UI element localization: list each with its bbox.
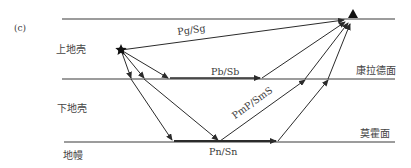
- upper-crust-label: 上地壳: [56, 45, 86, 55]
- lower-crust-label: 下地壳: [57, 104, 87, 114]
- ray-pmp-up-upper: [305, 23, 348, 79]
- ray-pb-down: [121, 50, 168, 78]
- ray-pn-down: [131, 79, 172, 140]
- moho-interface-label: 莫霍面: [360, 129, 390, 139]
- ray-pn-up: [278, 80, 328, 141]
- conrad-interface-label: 康拉德面: [356, 66, 396, 76]
- ray-pmp-down-to-conrad: [121, 50, 144, 78]
- ray-pn-down-to-conrad: [121, 50, 131, 78]
- triangle-station-icon: [348, 9, 358, 18]
- mantle-label: 地幔: [63, 151, 83, 161]
- ray-label-pb-sb: Pb/Sb: [211, 67, 239, 77]
- seismic-ray-diagram: (c) 上地壳 下地壳 地幔 康拉德面 莫霍面 Pg/Sg Pb/Sb PmP/…: [0, 0, 411, 168]
- ray-pb-up: [262, 22, 345, 78]
- star-source-icon: [115, 44, 126, 55]
- ray-label-pn-sn: Pn/Sn: [209, 147, 237, 157]
- panel-label: (c): [14, 24, 26, 33]
- ray-path-canvas: [0, 0, 411, 168]
- ray-pmp-down: [144, 79, 218, 140]
- ray-pn-up-upper: [328, 24, 350, 79]
